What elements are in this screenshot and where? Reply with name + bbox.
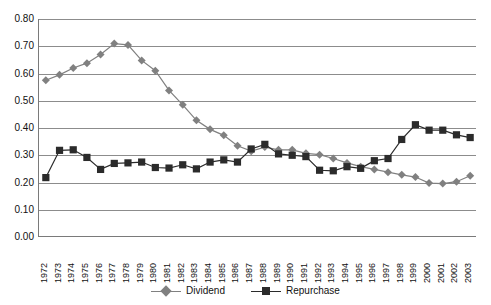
plot-area	[38, 19, 476, 237]
data-point-diamond	[452, 178, 460, 186]
legend-label-repurchase: Repurchase	[286, 286, 340, 296]
y-tick-label: 0.30	[0, 150, 34, 160]
data-point-square	[289, 152, 296, 159]
data-point-diamond	[425, 179, 433, 187]
data-point-diamond	[329, 155, 337, 163]
data-point-square	[412, 121, 419, 128]
x-tick-label: 1975	[81, 263, 90, 283]
x-tick-label: 1992	[314, 263, 323, 283]
series-dividend	[42, 40, 474, 188]
x-tick-label: 2001	[437, 263, 446, 283]
x-tick-label: 1978	[122, 263, 131, 283]
x-tick-label: 1998	[396, 263, 405, 283]
data-point-square	[453, 131, 460, 138]
y-tick-label: 0.00	[0, 232, 34, 242]
data-point-diamond	[411, 173, 419, 181]
data-point-square	[165, 164, 172, 171]
legend-item-dividend: Dividend	[151, 285, 225, 297]
x-tick-label: 1982	[177, 263, 186, 283]
data-point-square	[234, 158, 241, 165]
data-point-diamond	[398, 171, 406, 179]
chart-legend: Dividend Repurchase	[0, 281, 491, 301]
legend-symbol-repurchase	[251, 285, 281, 297]
data-point-diamond	[439, 180, 447, 188]
data-point-square	[220, 156, 227, 163]
data-point-square	[261, 141, 268, 148]
legend-label-dividend: Dividend	[186, 286, 225, 296]
x-tick-label: 1979	[136, 263, 145, 283]
data-point-square	[193, 165, 200, 172]
x-tick-label: 1976	[95, 263, 104, 283]
y-tick-label: 0.10	[0, 205, 34, 215]
data-point-square	[138, 158, 145, 165]
data-point-square	[398, 136, 405, 143]
x-tick-label: 1973	[54, 263, 63, 283]
data-point-square	[467, 134, 474, 141]
x-tick-label: 1972	[40, 263, 49, 283]
data-point-square	[439, 127, 446, 134]
x-axis: 1972197319741975197619771978197919801981…	[38, 239, 476, 283]
x-tick-label: 1980	[149, 263, 158, 283]
series-layer	[39, 19, 477, 237]
x-tick-label: 1993	[327, 263, 336, 283]
data-point-diamond	[206, 125, 214, 133]
data-point-square	[330, 167, 337, 174]
x-tick-label: 1990	[286, 263, 295, 283]
x-tick-label: 1986	[231, 263, 240, 283]
diamond-marker-icon	[160, 285, 171, 296]
data-point-square	[206, 158, 213, 165]
x-tick-label: 1989	[273, 263, 282, 283]
data-point-diamond	[384, 168, 392, 176]
data-point-square	[302, 153, 309, 160]
data-point-square	[371, 157, 378, 164]
data-point-square	[124, 159, 131, 166]
x-tick-label: 1991	[300, 263, 309, 283]
series-repurchase	[42, 121, 474, 181]
legend-symbol-dividend	[151, 285, 181, 297]
y-tick-label: 0.70	[0, 41, 34, 51]
data-point-square	[316, 167, 323, 174]
data-point-diamond	[83, 59, 91, 67]
data-point-square	[179, 161, 186, 168]
data-point-square	[111, 160, 118, 167]
y-axis: 0.800.700.600.500.400.300.200.100.00	[0, 19, 34, 237]
data-point-square	[70, 146, 77, 153]
x-tick-label: 2003	[464, 263, 473, 283]
x-tick-label: 1984	[204, 263, 213, 283]
x-tick-label: 1997	[382, 263, 391, 283]
x-tick-label: 1995	[355, 263, 364, 283]
y-tick-label: 0.80	[0, 14, 34, 24]
series-line	[46, 44, 470, 184]
data-point-square	[152, 164, 159, 171]
data-point-diamond	[69, 64, 77, 72]
legend-item-repurchase: Repurchase	[251, 285, 340, 297]
x-tick-label: 1983	[190, 263, 199, 283]
chart-container: 0.800.700.600.500.400.300.200.100.00 197…	[0, 0, 491, 305]
data-point-square	[343, 163, 350, 170]
data-point-diamond	[56, 71, 64, 79]
x-tick-label: 2000	[423, 263, 432, 283]
y-tick-label: 0.40	[0, 123, 34, 133]
x-tick-label: 1974	[67, 263, 76, 283]
x-tick-label: 1996	[368, 263, 377, 283]
series-line	[46, 125, 470, 178]
x-tick-label: 1994	[341, 263, 350, 283]
data-point-square	[56, 147, 63, 154]
y-tick-label: 0.60	[0, 69, 34, 79]
x-tick-label: 1987	[245, 263, 254, 283]
x-tick-label: 1981	[163, 263, 172, 283]
x-tick-label: 2002	[450, 263, 459, 283]
data-point-square	[83, 154, 90, 161]
x-tick-label: 1999	[409, 263, 418, 283]
data-point-square	[97, 166, 104, 173]
y-tick-label: 0.20	[0, 178, 34, 188]
data-point-diamond	[316, 151, 324, 159]
x-tick-label: 1985	[218, 263, 227, 283]
data-point-square	[42, 174, 49, 181]
square-marker-icon	[262, 287, 270, 295]
y-tick-label: 0.50	[0, 96, 34, 106]
data-point-diamond	[370, 165, 378, 173]
data-point-diamond	[42, 76, 50, 84]
x-tick-label: 1988	[259, 263, 268, 283]
data-point-square	[357, 165, 364, 172]
